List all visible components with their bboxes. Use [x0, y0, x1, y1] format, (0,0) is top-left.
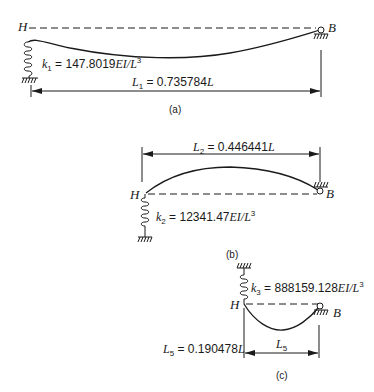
spring-stiffness-label: k1 = 147.8019EI/L3: [42, 56, 142, 73]
spring-icon: [24, 42, 32, 78]
caption-a: (a): [169, 104, 181, 115]
ground-hatch-icon: [138, 237, 152, 242]
spring-icon: [240, 268, 248, 304]
beam-mode-shapes-diagram: H B k1 = 147.8019EI/L3 L1 = 0.735784L (a…: [0, 0, 374, 392]
pin-support-icon: [317, 188, 323, 194]
span-length-label: L1 = 0.735784L: [131, 75, 214, 91]
pin-support-icon: [318, 27, 324, 33]
ground-hatch-icon: [22, 78, 38, 83]
panel-b: L2 = 0.446441L H k2 = 12341.47EI/L3 B (b…: [129, 140, 334, 260]
node-b-label: B: [326, 186, 334, 201]
ground-hatch-icon: [237, 263, 251, 268]
span-length-label: L5 = 0.190478L: [162, 342, 245, 358]
pin-support-icon: [317, 303, 323, 309]
spring-icon: [141, 194, 149, 237]
panel-c: k3 = 888159.128EI/L3 H B L5 L5 = 0.19047…: [162, 263, 364, 381]
caption-c: (c): [276, 370, 288, 381]
node-h-label: H: [17, 19, 28, 34]
node-b-label: B: [333, 305, 341, 320]
deflected-beam-curve: [146, 167, 318, 193]
ground-hatch-icon: [314, 34, 328, 39]
ground-hatch-icon: [314, 310, 328, 315]
node-b-label: B: [328, 20, 336, 35]
spring-stiffness-label: k3 = 888159.128EI/L3: [251, 280, 364, 297]
panel-a: H B k1 = 147.8019EI/L3 L1 = 0.735784L (a…: [17, 19, 336, 115]
dimension-label: L5: [275, 337, 288, 353]
node-h-label: H: [229, 297, 240, 312]
caption-b: (b): [226, 249, 238, 260]
deflected-beam-curve: [28, 30, 320, 58]
deflected-beam-curve: [244, 304, 318, 330]
node-h-label: H: [129, 187, 140, 202]
spring-stiffness-label: k2 = 12341.47EI/L3: [156, 209, 256, 226]
